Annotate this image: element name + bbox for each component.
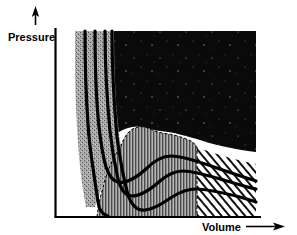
right-arrow-icon: [246, 222, 285, 230]
pv-phase-diagram: Pressure Volume: [0, 0, 297, 235]
plot-body: [75, 31, 256, 217]
up-arrow-icon: [32, 6, 39, 25]
y-axis-label: Pressure: [8, 31, 55, 43]
x-axis-label: Volume: [202, 221, 241, 233]
